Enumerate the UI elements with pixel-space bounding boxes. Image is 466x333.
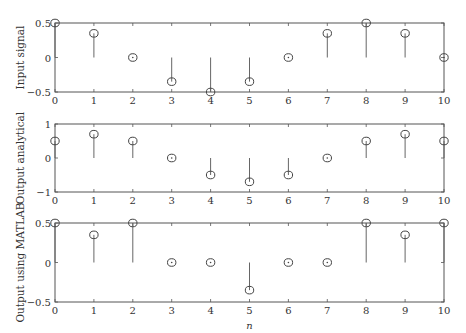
subplot-2: 012345678910−101Output analytical (14, 111, 450, 206)
x-tick-label: 6 (285, 195, 291, 206)
y-tick-label: −1 (36, 187, 51, 198)
x-tick-label: 6 (285, 95, 291, 106)
x-tick-label: 2 (130, 95, 136, 106)
x-tick-label: 7 (324, 305, 330, 316)
x-tick-label: 1 (91, 195, 97, 206)
x-tick-label: 6 (285, 305, 291, 316)
x-tick-label: 3 (169, 305, 175, 316)
subplot-1: 012345678910−0.500.5Input signal (14, 18, 450, 106)
x-tick-label: 1 (91, 305, 97, 316)
y-axis-label: Output using MATLAB (14, 202, 26, 322)
x-tick-label: 4 (207, 305, 213, 316)
x-tick-label: 9 (402, 305, 408, 316)
stem-marker-center (288, 57, 290, 59)
x-tick-label: 5 (246, 305, 252, 316)
stem-plot-figure: 012345678910−0.500.5Input signal01234567… (0, 0, 466, 333)
subplot-3: 012345678910−0.500.5Output using MATLABn (14, 202, 450, 331)
x-tick-label: 3 (169, 195, 175, 206)
x-tick-label: 0 (52, 95, 58, 106)
stem-marker-center (443, 57, 445, 59)
x-axis-label: n (246, 320, 252, 331)
x-tick-label: 8 (363, 195, 369, 206)
stem-marker-center (171, 157, 173, 159)
y-tick-label: 0 (45, 53, 51, 64)
stem-marker-center (171, 262, 173, 264)
y-tick-label: 0.5 (35, 18, 51, 29)
x-tick-label: 8 (363, 95, 369, 106)
x-tick-label: 0 (52, 195, 58, 206)
y-axis-label: Output analytical (14, 111, 26, 204)
x-tick-label: 4 (207, 195, 213, 206)
x-tick-label: 7 (324, 95, 330, 106)
x-tick-label: 9 (402, 95, 408, 106)
y-tick-label: −0.5 (27, 87, 51, 98)
y-tick-label: 0 (45, 153, 51, 164)
x-tick-label: 10 (438, 195, 451, 206)
x-tick-label: 10 (438, 95, 451, 106)
y-tick-label: 1 (45, 119, 51, 130)
x-tick-label: 0 (52, 305, 58, 316)
x-tick-label: 1 (91, 95, 97, 106)
x-tick-label: 3 (169, 95, 175, 106)
x-tick-label: 5 (246, 195, 252, 206)
y-tick-label: 0 (45, 258, 51, 269)
x-tick-label: 5 (246, 95, 252, 106)
x-tick-label: 2 (130, 195, 136, 206)
x-tick-label: 10 (438, 305, 451, 316)
stem-marker-center (210, 262, 212, 264)
y-tick-label: 0.5 (35, 218, 51, 229)
x-tick-label: 8 (363, 305, 369, 316)
stem-marker-center (288, 262, 290, 264)
stem-marker-center (327, 157, 329, 159)
x-tick-label: 7 (324, 195, 330, 206)
y-axis-label: Input signal (14, 25, 26, 89)
x-tick-label: 2 (130, 305, 136, 316)
stem-marker-center (132, 57, 134, 59)
stem-marker-center (327, 262, 329, 264)
x-tick-label: 9 (402, 195, 408, 206)
x-tick-label: 4 (207, 95, 213, 106)
y-tick-label: −0.5 (27, 297, 51, 308)
